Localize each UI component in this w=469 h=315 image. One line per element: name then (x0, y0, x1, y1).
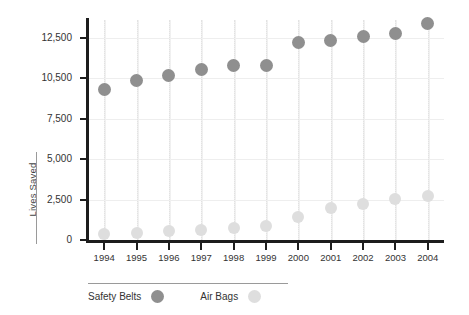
data-point (227, 59, 240, 72)
x-axis-tick (297, 243, 299, 250)
chart-legend: Safety BeltsAir Bags (88, 290, 261, 303)
y-axis-tick (80, 199, 88, 201)
x-axis-tick (168, 243, 170, 250)
x-axis-tick (136, 243, 138, 250)
y-axis-tick (80, 158, 88, 160)
data-point (325, 202, 337, 214)
y-axis-tick (80, 239, 88, 241)
data-point (195, 224, 207, 236)
data-point (130, 74, 143, 87)
gridline-vertical (201, 20, 203, 240)
data-point (162, 69, 175, 82)
chart-container: Lives Saved 02,5005,0007,50010,50012,500… (0, 0, 469, 315)
data-point (260, 220, 272, 232)
data-point (98, 228, 110, 240)
y-axis-tick (80, 37, 88, 39)
x-axis-tick (362, 243, 364, 250)
x-axis-tick (233, 243, 235, 250)
x-axis-tick (200, 243, 202, 250)
data-point (260, 59, 273, 72)
data-point (131, 227, 143, 239)
legend-item[interactable]: Safety Belts (88, 290, 164, 303)
data-point (357, 198, 369, 210)
y-axis-tick (80, 118, 88, 120)
data-point (357, 30, 370, 43)
y-axis-line (86, 18, 89, 242)
x-axis-tick (265, 243, 267, 250)
y-axis-tick-label: 0 (20, 234, 72, 245)
y-axis-tick-label: 7,500 (20, 113, 72, 124)
legend-swatch-icon (248, 290, 261, 303)
x-axis-tick-label: 2004 (406, 252, 450, 263)
y-axis-tick-label: 5,000 (20, 153, 72, 164)
gridline-vertical (298, 20, 300, 240)
legend-item-label: Safety Belts (88, 291, 141, 302)
gridline-vertical (428, 20, 430, 240)
y-axis-tick (80, 77, 88, 79)
data-point (163, 225, 175, 237)
y-axis-tick-label: 12,500 (20, 32, 72, 43)
gridline-vertical (169, 20, 171, 240)
data-point (195, 63, 208, 76)
gridline-vertical (395, 20, 397, 240)
data-point (324, 34, 337, 47)
data-point (389, 193, 401, 205)
x-axis-tick (427, 243, 429, 250)
data-point (421, 17, 434, 30)
legend-item-label: Air Bags (200, 291, 238, 302)
gridline-vertical (234, 20, 236, 240)
data-point (228, 222, 240, 234)
x-axis-tick (330, 243, 332, 250)
legend-item[interactable]: Air Bags (200, 290, 261, 303)
y-axis-tick-label: 2,500 (20, 194, 72, 205)
legend-divider (88, 283, 288, 284)
data-point (98, 83, 111, 96)
x-axis-tick (103, 243, 105, 250)
y-axis-tick-label: 10,500 (20, 72, 72, 83)
x-axis-tick (394, 243, 396, 250)
plot-area (88, 20, 444, 240)
data-point (292, 211, 304, 223)
gridline-vertical (104, 20, 106, 240)
legend-swatch-icon (151, 290, 164, 303)
data-point (292, 36, 305, 49)
data-point (422, 190, 434, 202)
gridline-vertical (266, 20, 268, 240)
gridline-vertical (137, 20, 139, 240)
